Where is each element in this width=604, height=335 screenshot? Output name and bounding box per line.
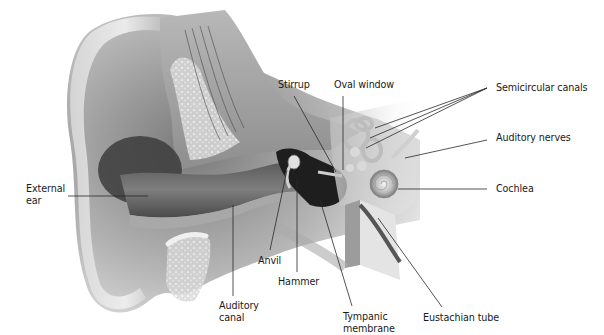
- label-anvil: Anvil: [258, 255, 281, 267]
- cochlea-shape: [370, 170, 398, 198]
- label-oval-window-text: Oval window: [334, 79, 394, 91]
- label-semicircular-canals: Semicircular canals: [496, 82, 587, 94]
- label-auditory-canal-line1: Auditory: [219, 300, 259, 312]
- label-external-ear-line2: ear: [26, 195, 65, 207]
- label-tympanic-membrane: Tympanic membrane: [343, 311, 395, 335]
- label-cochlea-text: Cochlea: [496, 183, 534, 195]
- label-oval-window: Oval window: [334, 79, 394, 91]
- label-hammer-text: Hammer: [278, 276, 319, 288]
- label-hammer: Hammer: [278, 276, 319, 288]
- label-stirrup-text: Stirrup: [278, 79, 310, 91]
- label-tympanic-membrane-line1: Tympanic: [343, 311, 395, 323]
- label-auditory-nerves-text: Auditory nerves: [496, 132, 571, 144]
- label-cochlea: Cochlea: [496, 183, 534, 195]
- label-external-ear: External ear: [26, 183, 65, 207]
- label-eustachian-tube-text: Eustachian tube: [423, 312, 499, 324]
- label-tympanic-membrane-line2: membrane: [343, 323, 395, 335]
- label-auditory-canal: Auditory canal: [219, 300, 259, 324]
- cut-block-left: [345, 200, 360, 268]
- label-eustachian-tube: Eustachian tube: [423, 312, 499, 324]
- lobe-cartilage: [166, 235, 210, 302]
- label-semicircular-canals-text: Semicircular canals: [496, 82, 587, 94]
- label-external-ear-line1: External: [26, 183, 65, 195]
- label-anvil-text: Anvil: [258, 255, 281, 267]
- label-auditory-canal-line2: canal: [219, 312, 259, 324]
- label-stirrup: Stirrup: [278, 79, 310, 91]
- label-auditory-nerves: Auditory nerves: [496, 132, 571, 144]
